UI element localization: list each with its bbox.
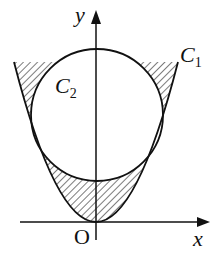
c2-subscript: 2	[70, 86, 77, 101]
circle-c2	[31, 49, 163, 181]
c2-label: C2	[55, 73, 77, 102]
x-axis-label: x	[193, 226, 203, 252]
c1-subscript: 1	[195, 55, 202, 70]
c1-label: C1	[180, 42, 202, 71]
c1-letter: C	[180, 42, 195, 67]
y-axis-arrow-icon	[91, 10, 101, 24]
figure: y x O C1 C2	[0, 0, 215, 255]
y-axis-label: y	[75, 2, 85, 28]
diagram-canvas	[0, 0, 215, 255]
c2-letter: C	[55, 73, 70, 98]
origin-label: O	[74, 224, 90, 250]
